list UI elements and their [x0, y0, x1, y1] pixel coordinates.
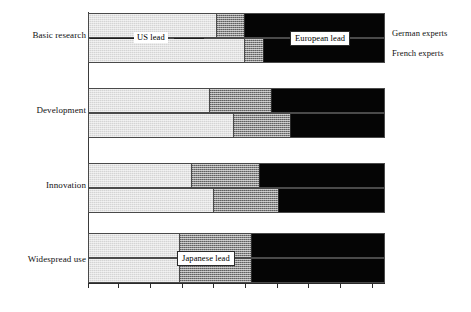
segment-japanese-lead: [213, 189, 279, 212]
segment-us-lead: [89, 114, 233, 137]
legend-label-french-experts: French experts: [392, 48, 444, 58]
segment-japanese-lead: [216, 14, 245, 37]
x-axis-tick: [88, 283, 89, 288]
bar-development-german: [88, 88, 385, 113]
us-lead-leader-left: [90, 38, 135, 39]
annotation-japanese-lead: Japanese lead: [177, 251, 235, 266]
chart-container: Basic research Development Innovation Wi…: [0, 0, 471, 312]
segment-european-lead: [278, 189, 384, 212]
x-axis-tick: [245, 283, 246, 288]
bar-innovation-french: [88, 188, 385, 213]
annotation-us-lead: US lead: [134, 32, 168, 43]
us-lead-leader-right: [174, 38, 204, 39]
segment-japanese-lead: [244, 39, 264, 62]
x-axis-tick: [340, 283, 341, 288]
bar-innovation-german: [88, 163, 385, 188]
legend-label-german-experts: German experts: [392, 28, 447, 38]
segment-us-lead: [89, 234, 179, 257]
x-axis-tick: [150, 283, 151, 288]
category-label-innovation: Innovation: [4, 180, 86, 190]
x-axis-tick: [277, 283, 278, 288]
segment-us-lead: [89, 89, 209, 112]
segment-japanese-lead: [209, 89, 272, 112]
segment-us-lead: [89, 259, 179, 282]
x-axis-tick: [308, 283, 309, 288]
x-axis-tick: [118, 283, 119, 288]
segment-japanese-lead: [233, 114, 291, 137]
segment-us-lead: [89, 189, 213, 212]
x-axis-tick: [372, 283, 373, 288]
segment-european-lead: [251, 259, 384, 282]
category-label-development: Development: [4, 105, 86, 115]
segment-european-lead: [251, 234, 384, 257]
x-axis-tick: [213, 283, 214, 288]
category-label-widespread-use: Widespread use: [4, 254, 86, 264]
bar-development-french: [88, 113, 385, 138]
bar-widespread-use-german: [88, 233, 385, 258]
x-axis-tick: [182, 283, 183, 288]
segment-european-lead: [259, 164, 384, 187]
segment-us-lead: [89, 164, 191, 187]
category-label-basic-research: Basic research: [4, 30, 86, 40]
segment-japanese-lead: [191, 164, 260, 187]
bar-widespread-use-french: [88, 258, 385, 283]
segment-european-lead: [290, 114, 384, 137]
annotation-european-lead: European lead: [290, 31, 350, 46]
segment-european-lead: [271, 89, 384, 112]
